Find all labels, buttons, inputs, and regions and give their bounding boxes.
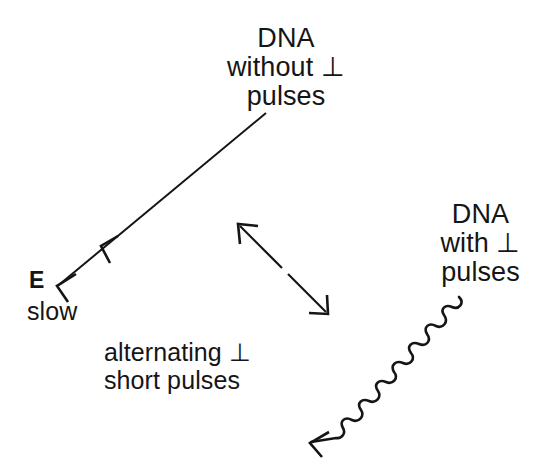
long-diagonal-arrow: [57, 113, 266, 302]
bidirectional-arrow: [238, 224, 328, 314]
label-dna-with-pulses: DNA with ⊥ pulses: [424, 200, 537, 287]
label-alternating-short-pulses: alternating ⊥ short pulses: [104, 338, 251, 394]
label-dna-without-pulses: DNA without ⊥ pulses: [198, 24, 374, 111]
label-field-symbol: E: [29, 268, 44, 293]
label-field-speed: slow: [27, 298, 77, 325]
wavy-arrow: [310, 297, 461, 457]
diagram-canvas: DNA without ⊥ pulses DNA with ⊥ pulses E…: [0, 0, 537, 465]
